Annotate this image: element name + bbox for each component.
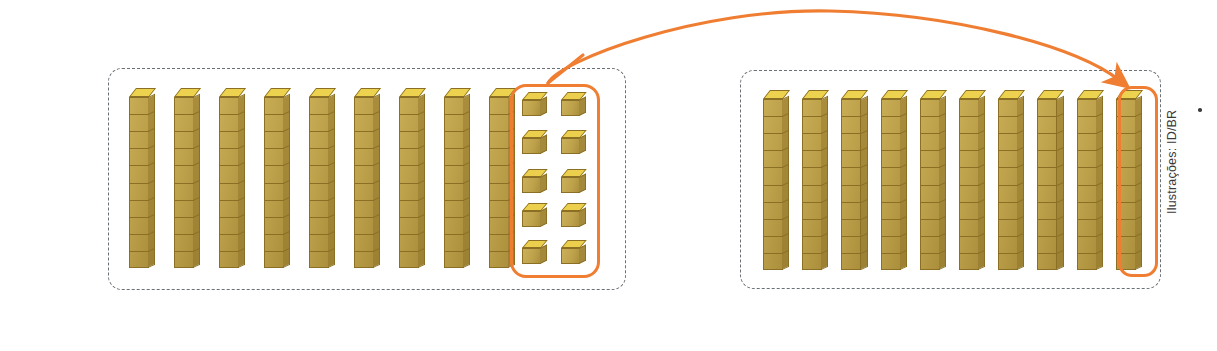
- rod-unit-divider: [998, 150, 1018, 151]
- rod-unit-divider: [959, 236, 979, 237]
- rod-unit-divider: [1077, 219, 1097, 220]
- rod-unit-divider: [998, 116, 1018, 117]
- rod-unit-divider: [129, 114, 149, 115]
- rod-unit-divider: [763, 116, 783, 117]
- ten-rod: [802, 90, 828, 270]
- rod-unit-divider: [920, 202, 940, 203]
- rod-unit-divider: [841, 133, 861, 134]
- rod-unit-divider: [174, 114, 194, 115]
- rod-unit-divider: [174, 183, 194, 184]
- rod-unit-divider: [920, 150, 940, 151]
- rod-unit-divider: [881, 219, 901, 220]
- rod-unit-divider: [841, 167, 861, 168]
- rod-unit-divider: [841, 185, 861, 186]
- rod-unit-divider: [841, 219, 861, 220]
- rod-unit-divider: [219, 234, 239, 235]
- rod-unit-divider: [129, 251, 149, 252]
- rod-unit-divider: [802, 116, 822, 117]
- rod-unit-divider: [841, 202, 861, 203]
- rod-unit-divider: [219, 114, 239, 115]
- rod-unit-divider: [444, 200, 464, 201]
- rod-unit-divider: [399, 183, 419, 184]
- ten-rod: [129, 88, 155, 268]
- rod-unit-divider: [309, 148, 329, 149]
- rod-unit-divider: [489, 200, 509, 201]
- rod-unit-divider: [802, 133, 822, 134]
- rod-unit-divider: [444, 131, 464, 132]
- rod-unit-divider: [444, 148, 464, 149]
- rod-unit-divider: [489, 183, 509, 184]
- rod-unit-divider: [881, 185, 901, 186]
- rod-unit-divider: [802, 219, 822, 220]
- rod-unit-divider: [802, 167, 822, 168]
- rod-unit-divider: [309, 165, 329, 166]
- rod-unit-divider: [219, 148, 239, 149]
- ten-rod: [309, 88, 335, 268]
- rod-unit-divider: [489, 165, 509, 166]
- ones-highlight-box: [510, 84, 600, 278]
- rod-unit-divider: [264, 183, 284, 184]
- rod-unit-divider: [998, 236, 1018, 237]
- rod-unit-divider: [1077, 133, 1097, 134]
- rod-unit-divider: [219, 183, 239, 184]
- rod-unit-divider: [763, 236, 783, 237]
- rod-unit-divider: [174, 131, 194, 132]
- rod-unit-divider: [881, 133, 901, 134]
- rod-unit-divider: [219, 131, 239, 132]
- rod-unit-divider: [802, 150, 822, 151]
- rod-unit-divider: [129, 234, 149, 235]
- rod-unit-divider: [920, 116, 940, 117]
- rod-unit-divider: [998, 202, 1018, 203]
- rod-unit-divider: [444, 165, 464, 166]
- rod-unit-divider: [129, 165, 149, 166]
- rod-unit-divider: [998, 219, 1018, 220]
- ten-rod: [920, 90, 946, 270]
- ten-rod: [1037, 90, 1063, 270]
- rod-unit-divider: [959, 202, 979, 203]
- rod-unit-divider: [1077, 185, 1097, 186]
- rod-unit-divider: [1077, 150, 1097, 151]
- rod-unit-divider: [399, 114, 419, 115]
- ten-rod: [354, 88, 380, 268]
- rod-unit-divider: [802, 185, 822, 186]
- rod-unit-divider: [354, 131, 374, 132]
- illustration-credit: Ilustrações: ID/BR: [1163, 64, 1181, 214]
- rod-unit-divider: [219, 217, 239, 218]
- rod-unit-divider: [174, 165, 194, 166]
- rod-unit-divider: [763, 202, 783, 203]
- rod-unit-divider: [489, 251, 509, 252]
- rod-unit-divider: [129, 217, 149, 218]
- rod-unit-divider: [354, 165, 374, 166]
- rod-unit-divider: [841, 253, 861, 254]
- rod-unit-divider: [219, 251, 239, 252]
- rod-unit-divider: [489, 148, 509, 149]
- ten-rod: [264, 88, 290, 268]
- rod-unit-divider: [920, 236, 940, 237]
- rod-unit-divider: [399, 148, 419, 149]
- rod-unit-divider: [881, 202, 901, 203]
- rod-unit-divider: [309, 234, 329, 235]
- rod-unit-divider: [444, 251, 464, 252]
- rod-unit-divider: [444, 183, 464, 184]
- ten-rod: [959, 90, 985, 270]
- rod-unit-divider: [1037, 236, 1057, 237]
- rod-unit-divider: [354, 234, 374, 235]
- rod-unit-divider: [1037, 116, 1057, 117]
- rod-unit-divider: [489, 217, 509, 218]
- rod-unit-divider: [841, 236, 861, 237]
- ten-rod: [998, 90, 1024, 270]
- rod-unit-divider: [129, 131, 149, 132]
- rod-unit-divider: [354, 148, 374, 149]
- rod-unit-divider: [399, 165, 419, 166]
- rod-unit-divider: [998, 133, 1018, 134]
- rod-unit-divider: [129, 200, 149, 201]
- rod-unit-divider: [444, 217, 464, 218]
- page-dot-mark: [1198, 108, 1202, 112]
- rod-unit-divider: [399, 200, 419, 201]
- rod-unit-divider: [264, 200, 284, 201]
- rod-unit-divider: [1037, 219, 1057, 220]
- rod-unit-divider: [959, 219, 979, 220]
- rod-unit-divider: [881, 253, 901, 254]
- rod-unit-divider: [129, 183, 149, 184]
- rod-unit-divider: [881, 236, 901, 237]
